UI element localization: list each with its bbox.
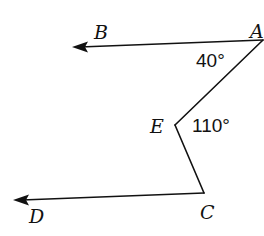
point-label-b: B <box>93 21 108 43</box>
ray-cd <box>13 193 204 206</box>
point-label-a: A <box>248 20 264 42</box>
point-label-e: E <box>149 115 164 137</box>
angle-label-bae: 40° <box>196 50 225 71</box>
point-label-c: C <box>200 201 215 223</box>
geometry-diagram: A B E C D 40° 110° <box>0 0 264 236</box>
point-label-d: D <box>28 205 44 227</box>
angle-label-aec: 110° <box>192 115 230 136</box>
